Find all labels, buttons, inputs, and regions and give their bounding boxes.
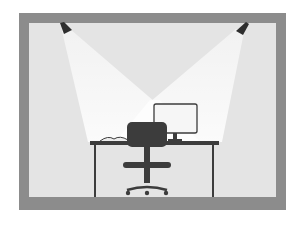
desk-leg-left [94,145,96,197]
chair-backrest [127,122,167,147]
chair-wheel [145,191,149,195]
desk-leg-right [212,145,214,197]
chair-wheel [126,191,130,195]
monitor-stand [173,133,177,140]
chair-wheel [164,191,168,195]
chair-seat [123,162,171,168]
office-lighting-illustration [0,0,298,225]
monitor-base [168,139,182,141]
